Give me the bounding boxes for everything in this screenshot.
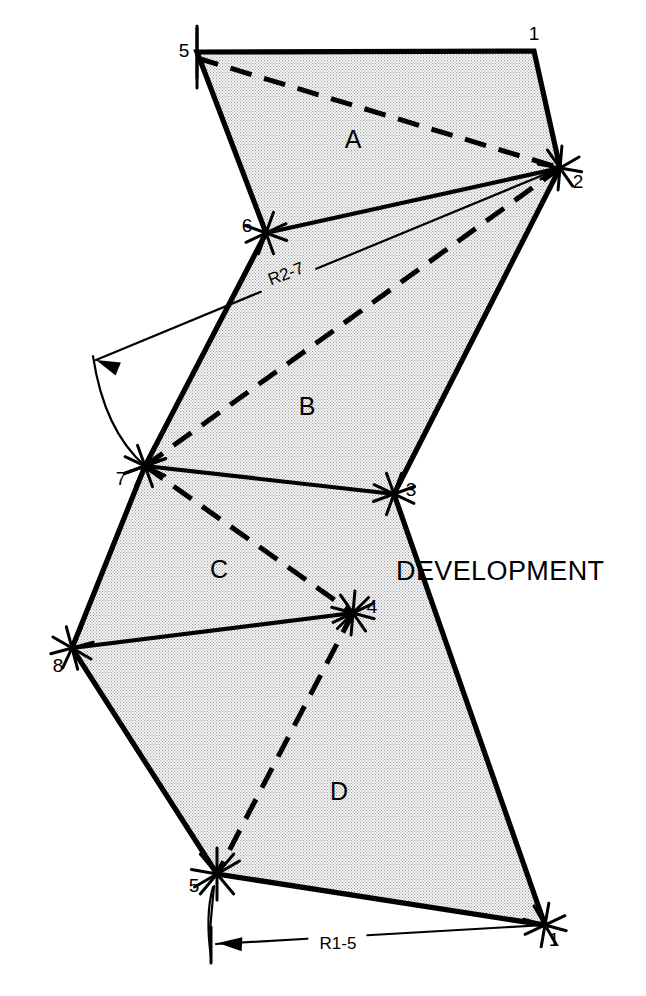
figure-canvas: R2-7R1-5 5126738451 ABCD DEVELOPMENT <box>0 0 646 996</box>
vertex-label-6-v6: 6 <box>242 215 253 236</box>
radius-1-5-leader-a <box>367 925 545 935</box>
panel-label-B: B <box>299 392 316 420</box>
panel-label-A: A <box>345 125 362 153</box>
development-drawing: R2-7R1-5 5126738451 ABCD DEVELOPMENT <box>0 0 646 996</box>
vertex-label-7-v7: 7 <box>116 468 127 489</box>
vertex-label-5-v5_bot: 5 <box>189 875 200 896</box>
vertex-label-8-v8: 8 <box>53 655 64 676</box>
vertex-label-2-v2: 2 <box>573 171 584 192</box>
radius-2-7-arc <box>93 356 145 466</box>
vertex-label-4-v4: 4 <box>367 596 378 617</box>
panel-label-D: D <box>330 777 348 805</box>
vertex-label-3-v3: 3 <box>406 479 417 500</box>
radius-1-5-label: R1-5 <box>320 934 357 953</box>
radius-2-7-arrowhead <box>96 360 121 375</box>
radius-1-5-arrowhead <box>218 937 242 951</box>
vertex-label-1-v1_top: 1 <box>529 23 540 44</box>
panel-label-C: C <box>210 555 228 583</box>
vertex-label-1-v1_bot: 1 <box>549 929 560 950</box>
development-title: DEVELOPMENT <box>396 556 604 586</box>
vertex-label-5-v5_top: 5 <box>179 40 190 61</box>
